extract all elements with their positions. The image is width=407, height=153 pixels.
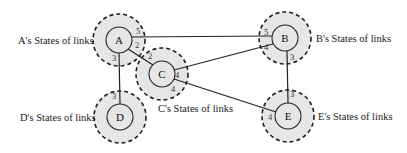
link-state-number: 5 xyxy=(264,27,268,37)
node-label: E xyxy=(285,110,292,122)
node-label: A xyxy=(115,34,123,46)
node-label: D xyxy=(116,111,124,123)
link-state-number: 3 xyxy=(290,89,294,99)
link-a-b xyxy=(132,36,272,37)
link-state-number: 3 xyxy=(112,91,116,101)
link-c-b xyxy=(174,44,273,70)
network-diagram: ABCDE 523543244343 A's States of linksB'… xyxy=(0,0,407,153)
node-d: D xyxy=(107,104,133,130)
node-label: C xyxy=(158,68,165,80)
link-state-number: 3 xyxy=(290,52,294,62)
state-label-d: D's States of links xyxy=(20,112,96,123)
link-state-number: 3 xyxy=(112,53,116,63)
node-b: B xyxy=(272,25,298,51)
link-state-number: 2 xyxy=(135,40,139,50)
state-label-a: A's States of links xyxy=(18,35,94,46)
node-a: A xyxy=(106,27,132,53)
state-label-b: B's States of links xyxy=(316,33,391,44)
state-labels: A's States of linksB's States of linksC'… xyxy=(18,33,393,123)
state-label-e: E's States of links xyxy=(318,111,393,122)
link-state-number: 2 xyxy=(148,51,152,61)
state-label-c: C's States of links xyxy=(158,103,233,114)
link-state-number: 5 xyxy=(136,26,140,36)
node-label: B xyxy=(281,32,288,44)
node-e: E xyxy=(275,103,301,129)
